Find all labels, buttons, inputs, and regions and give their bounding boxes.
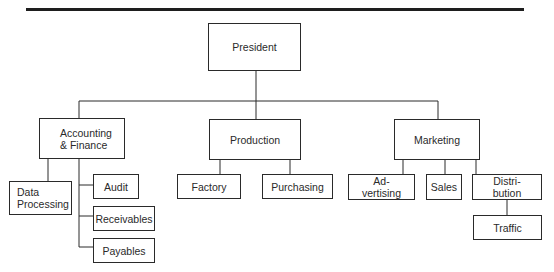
node-label: Receivables [95,213,152,225]
node-payables: Payables [93,238,155,263]
node-accounting-finance: Accounting & Finance [39,118,125,159]
node-production: Production [209,119,301,160]
node-label: Payables [102,245,145,257]
node-label: Purchasing [271,181,324,193]
node-purchasing: Purchasing [262,174,333,199]
node-factory: Factory [177,174,241,199]
node-president: President [208,23,301,71]
node-marketing: Marketing [394,119,480,160]
node-data-processing: Data Processing [9,181,72,215]
node-label: Sales [431,181,457,193]
node-distribution: Distri- bution [472,174,542,200]
node-label: Accounting & Finance [60,127,112,151]
node-label: Audit [104,181,128,193]
node-label: Factory [191,181,226,193]
node-label: Marketing [414,134,460,146]
node-label: Traffic [493,222,522,234]
node-label: Data Processing [17,186,69,210]
node-label: Distri- bution [493,175,522,199]
node-advertising: Ad- vertising [348,174,415,200]
node-traffic: Traffic [473,215,542,240]
node-receivables: Receivables [93,206,155,231]
node-sales: Sales [426,174,462,200]
node-label: President [232,41,276,53]
node-label: Ad- vertising [362,175,401,199]
node-label: Production [230,134,280,146]
node-audit: Audit [93,174,139,199]
